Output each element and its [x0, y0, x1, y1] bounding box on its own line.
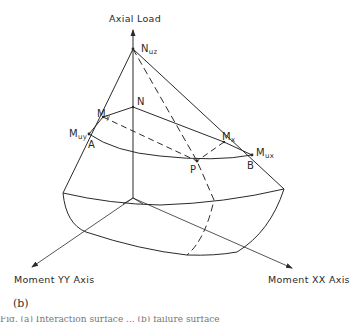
dashed-my-p: [103, 117, 197, 161]
point-n-label: N: [137, 96, 145, 107]
figure-caption-cropped: Fig. (a) Interaction surface ... (b) fai…: [0, 316, 362, 322]
base-bowl-left: [63, 189, 284, 255]
moment-yy-axis: [32, 198, 133, 267]
point-nuz-label: Nuz: [141, 43, 158, 56]
moment-xx-label: Moment XX Axis: [268, 274, 350, 285]
panel-label: (b): [13, 297, 29, 310]
moment-yy-label: Moment YY Axis: [14, 274, 94, 285]
point-b-label: B: [247, 160, 254, 171]
load-contour-n: [103, 107, 224, 142]
base-rim-upper: [63, 189, 284, 205]
moment-xx-axis: [133, 198, 292, 268]
point-mx-label: Mx: [222, 131, 235, 144]
dashed-generator-p: [133, 49, 214, 255]
point-p-label: P: [190, 164, 196, 175]
point-mux-label: Mux: [256, 147, 274, 160]
cone-edge-left: [63, 49, 133, 193]
point-my-label: My: [97, 108, 110, 121]
point-muy-label: Muy: [69, 128, 87, 141]
cone-edge-right: [133, 49, 284, 189]
point-a-label: A: [88, 139, 95, 150]
axial-load-label: Axial Load: [109, 13, 161, 24]
